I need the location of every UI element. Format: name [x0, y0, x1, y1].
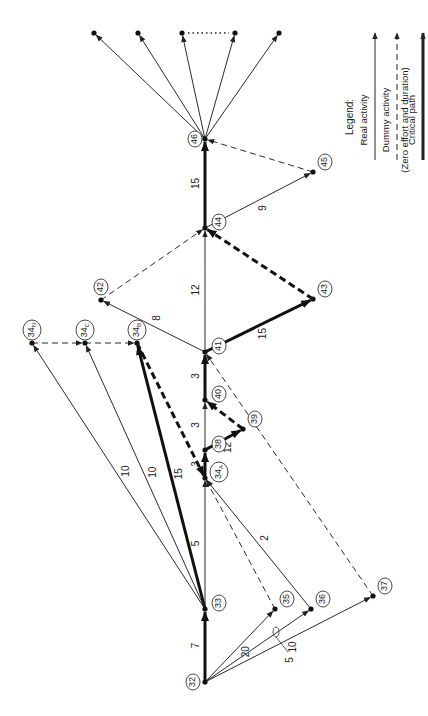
event-dot [202, 225, 207, 230]
event-dot [98, 297, 103, 302]
node-43: 43 [310, 281, 332, 302]
node-39: 39 [240, 411, 262, 432]
legend-item-0: Real activity [358, 33, 375, 160]
node-e3 [179, 30, 184, 35]
duration-label: 3 [190, 422, 201, 428]
node-34C: 34C [76, 320, 94, 346]
node-label: 44 [213, 217, 223, 227]
activity-39-40 [207, 402, 243, 429]
legend-item-2: Critical path [406, 33, 423, 160]
node-label: 35 [281, 594, 291, 604]
duration-label: 15 [257, 328, 268, 340]
event-dot [29, 340, 34, 345]
node-label: 38 [213, 439, 223, 449]
node-label: 46 [189, 134, 199, 144]
legend-title: Legend: [344, 99, 355, 135]
activity-46-e3 [183, 36, 205, 139]
event-dot [179, 30, 184, 35]
activity-32-35 [205, 611, 273, 682]
event-dot [91, 30, 96, 35]
event-dot [202, 349, 207, 354]
node-label: 43 [319, 284, 329, 294]
node-45: 45 [310, 154, 332, 175]
activity-46-e1 [96, 35, 205, 139]
duration-labels: 720105151010231233815121595 [120, 178, 298, 663]
activity-33-34C [86, 346, 205, 609]
activity-37-41 [207, 354, 373, 596]
activity-46-e5 [205, 35, 277, 139]
event-dot [240, 426, 245, 431]
legend: Legend:Real activityDummy activity(Zero … [344, 33, 423, 173]
duration-label: 2 [259, 535, 270, 541]
node-36: 36 [308, 591, 330, 612]
activity-45-46 [208, 140, 313, 172]
event-dot [276, 30, 281, 35]
duration-label: 10 [147, 466, 158, 478]
activity-arrows [32, 33, 373, 682]
activity-46-e4 [205, 36, 234, 139]
node-label: 36 [317, 594, 327, 604]
event-dot [310, 169, 315, 174]
node-label: 41 [213, 341, 223, 351]
event-dot [202, 475, 207, 480]
node-label: 37 [379, 581, 389, 591]
node-label: 33 [213, 598, 223, 608]
node-35: 35 [272, 591, 294, 612]
node-37: 37 [370, 578, 392, 599]
node-label: 32 [187, 677, 197, 687]
duration-label: 3 [190, 461, 201, 467]
node-34N: 34N [23, 320, 41, 346]
event-dot [202, 397, 207, 402]
node-41: 41 [202, 338, 226, 355]
node-e1 [91, 30, 96, 35]
node-e4 [232, 30, 237, 35]
duration-label: 8 [151, 315, 162, 321]
node-label: 42 [95, 282, 105, 292]
node-42: 42 [94, 279, 108, 303]
duration-label: 5 [284, 657, 295, 663]
node-e2 [135, 30, 140, 35]
activity-32-37 [205, 597, 370, 682]
duration-label: 9 [257, 205, 268, 211]
activity-36-34A [207, 480, 311, 609]
event-dot [202, 447, 207, 452]
network-diagram: 720105151010231233815121595 323334A34B34… [0, 0, 428, 716]
node-e5 [276, 30, 281, 35]
event-dot [310, 296, 315, 301]
event-dot [370, 593, 375, 598]
node-34B: 34B [128, 320, 146, 346]
activity-35-34A [206, 481, 275, 609]
legend-label: Critical path [406, 95, 417, 145]
event-dot [308, 606, 313, 611]
duration-label: 7 [190, 642, 201, 648]
duration-label: 20 [240, 646, 251, 658]
legend-label: Real activity [358, 94, 369, 145]
activity-46-e2 [140, 36, 205, 139]
node-label: 45 [319, 157, 329, 167]
event-dot [202, 136, 207, 141]
duration-label: 10 [287, 641, 298, 653]
node-label: 40 [213, 389, 223, 399]
duration-label: 12 [190, 284, 201, 296]
duration-label: 3 [190, 373, 201, 379]
duration-label: 15 [173, 468, 184, 480]
event-dot [232, 30, 237, 35]
duration-label: 15 [190, 178, 201, 190]
node-label: 39 [249, 414, 259, 424]
activity-43-44 [208, 230, 313, 299]
event-dot [272, 606, 277, 611]
activity-34B-34A [137, 343, 204, 475]
activity-41-42 [104, 301, 205, 352]
node-33: 33 [202, 595, 226, 612]
duration-label: 5 [190, 540, 201, 546]
node-38: 38 [202, 436, 226, 453]
event-dot [202, 679, 207, 684]
duration-label: 10 [120, 465, 131, 477]
activity-42-44 [101, 230, 203, 300]
event-dot [202, 606, 207, 611]
event-dot [135, 30, 140, 35]
event-dot [134, 340, 139, 345]
event-dot [82, 340, 87, 345]
legend-label: Dummy activity [380, 88, 391, 153]
